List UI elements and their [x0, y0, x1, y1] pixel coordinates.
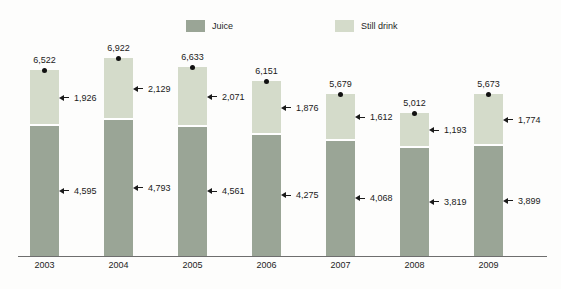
total-marker-dot	[338, 92, 343, 97]
total-marker-dot	[486, 92, 491, 97]
x-axis-tick-label: 2005	[173, 260, 213, 270]
total-value-label: 6,633	[170, 52, 216, 63]
juice-value-label: 4,068	[355, 192, 393, 204]
segment-divider	[104, 118, 133, 120]
bar-segment-still-drink	[400, 113, 429, 147]
x-axis-tick-label: 2009	[469, 260, 509, 270]
still-drink-value-label-text: 2,071	[222, 91, 245, 103]
still-drink-value-label-text: 2,129	[148, 83, 171, 95]
chart-canvas: Juice Still drink 6,5221,9264,59520036,9…	[0, 0, 561, 289]
left-arrow-icon	[355, 114, 365, 120]
total-value-label: 5,012	[392, 98, 438, 109]
total-value-label: 6,522	[22, 55, 68, 66]
left-arrow-icon	[133, 86, 143, 92]
still-drink-value-label: 2,129	[133, 83, 171, 95]
juice-value-label-text: 4,793	[148, 182, 171, 194]
still-drink-value-label: 1,926	[59, 92, 97, 104]
left-arrow-icon	[355, 195, 365, 201]
total-marker-dot	[190, 65, 195, 70]
still-drink-value-label-text: 1,774	[518, 114, 541, 126]
bar-segment-juice	[178, 126, 207, 256]
x-axis-tick-label: 2006	[247, 260, 287, 270]
still-drink-value-label: 1,774	[503, 114, 541, 126]
bar-segment-still-drink	[178, 67, 207, 126]
total-marker-dot	[264, 79, 269, 84]
juice-value-label: 4,595	[59, 185, 97, 197]
still-drink-value-label: 1,876	[281, 102, 319, 114]
total-value-label: 6,922	[96, 43, 142, 54]
x-axis-tick-label: 2008	[395, 260, 435, 270]
bar-segment-juice	[104, 119, 133, 256]
bar-segment-juice	[326, 140, 355, 256]
left-arrow-icon	[207, 94, 217, 100]
bar-segment-juice	[474, 145, 503, 256]
juice-value-label-text: 3,819	[444, 196, 467, 208]
still-drink-value-label-text: 1,926	[74, 92, 97, 104]
segment-divider	[30, 124, 59, 126]
still-drink-value-label: 1,612	[355, 111, 393, 123]
still-drink-value-label-text: 1,193	[444, 124, 467, 136]
juice-value-label-text: 4,068	[370, 192, 393, 204]
bar-segment-still-drink	[326, 94, 355, 140]
left-arrow-icon	[207, 188, 217, 194]
segment-divider	[400, 146, 429, 148]
left-arrow-icon	[281, 192, 291, 198]
juice-value-label-text: 4,595	[74, 185, 97, 197]
juice-value-label: 4,561	[207, 185, 245, 197]
x-axis-tick-label: 2003	[25, 260, 65, 270]
left-arrow-icon	[59, 95, 69, 101]
bar-segment-juice	[400, 147, 429, 256]
bar-segment-still-drink	[104, 58, 133, 119]
still-drink-value-label: 1,193	[429, 124, 467, 136]
segment-divider	[252, 133, 281, 135]
total-marker-dot	[42, 68, 47, 73]
left-arrow-icon	[281, 105, 291, 111]
segment-divider	[474, 144, 503, 146]
juice-value-label-text: 4,561	[222, 185, 245, 197]
still-drink-value-label-text: 1,876	[296, 102, 319, 114]
juice-value-label: 4,275	[281, 189, 319, 201]
left-arrow-icon	[503, 117, 513, 123]
left-arrow-icon	[59, 188, 69, 194]
total-value-label: 5,679	[318, 79, 364, 90]
bar-segment-still-drink	[474, 94, 503, 145]
still-drink-value-label: 2,071	[207, 91, 245, 103]
left-arrow-icon	[429, 199, 439, 205]
left-arrow-icon	[503, 198, 513, 204]
juice-value-label: 4,793	[133, 182, 171, 194]
segment-divider	[326, 139, 355, 141]
juice-value-label: 3,899	[503, 195, 541, 207]
juice-value-label: 3,819	[429, 196, 467, 208]
left-arrow-icon	[429, 127, 439, 133]
juice-value-label-text: 4,275	[296, 189, 319, 201]
juice-value-label-text: 3,899	[518, 195, 541, 207]
bar-segment-juice	[30, 125, 59, 256]
total-marker-dot	[412, 111, 417, 116]
plot-area: 6,5221,9264,59520036,9222,1294,79320046,…	[0, 0, 561, 289]
total-marker-dot	[116, 56, 121, 61]
x-axis-line	[18, 256, 547, 257]
total-value-label: 6,151	[244, 66, 290, 77]
segment-divider	[178, 125, 207, 127]
total-value-label: 5,673	[466, 79, 512, 90]
bar-segment-still-drink	[30, 70, 59, 125]
left-arrow-icon	[133, 185, 143, 191]
x-axis-tick-label: 2007	[321, 260, 361, 270]
still-drink-value-label-text: 1,612	[370, 111, 393, 123]
bar-segment-juice	[252, 134, 281, 256]
bar-segment-still-drink	[252, 81, 281, 134]
x-axis-tick-label: 2004	[99, 260, 139, 270]
